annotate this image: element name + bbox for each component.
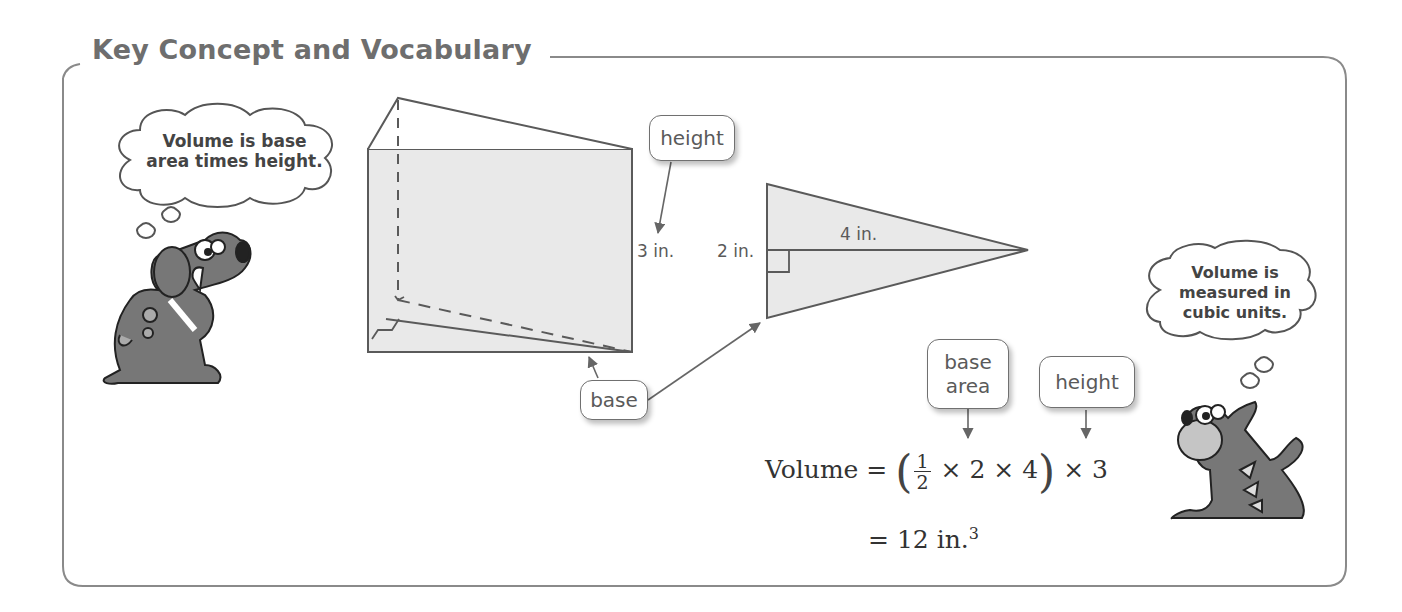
formula-outer-product: × 3 [1063, 455, 1108, 484]
formula-height-label: height [1039, 356, 1135, 408]
base-label: base [580, 380, 648, 420]
close-paren: ) [1038, 446, 1055, 497]
triangle-base [767, 184, 1028, 318]
height-arrow [658, 162, 671, 233]
dog-illustration [104, 233, 251, 384]
cat-illustration [1172, 402, 1304, 518]
fraction-one-half: 12 [914, 451, 930, 492]
fraction-denominator: 2 [914, 472, 930, 492]
formula-result: = 12 in. [868, 525, 969, 554]
open-paren: ( [895, 446, 912, 497]
triangle-height-dimension: 4 in. [840, 224, 877, 244]
triangle-base-dimension: 2 in. [717, 241, 754, 261]
base-area-label-line-2: area [946, 374, 991, 398]
formula-inner-product: × 2 × 4 [940, 455, 1038, 484]
cat-thought-line-3: cubic units. [1160, 303, 1310, 323]
base-area-label-line-1: base [944, 350, 992, 374]
cat-thought-text: Volume is measured in cubic units. [1160, 263, 1310, 323]
volume-formula-line-2: = 12 in.3 [868, 524, 979, 554]
formula-lhs: Volume = [765, 455, 887, 484]
base-arrow-prism [589, 357, 598, 378]
cat-thought-line-1: Volume is [1160, 263, 1310, 283]
dog-thought-line-2: area times height. [142, 151, 327, 171]
prism-height-dimension: 3 in. [637, 241, 674, 261]
base-arrow-triangle [648, 323, 760, 400]
cat-thought-line-2: measured in [1160, 283, 1310, 303]
height-label: height [649, 115, 735, 161]
fraction-numerator: 1 [914, 451, 930, 472]
volume-formula-line-1: Volume = (12 × 2 × 4) × 3 [765, 446, 1108, 497]
triangular-prism [368, 98, 632, 352]
dog-thought-text: Volume is base area times height. [142, 131, 327, 171]
base-area-label: base area [927, 339, 1009, 409]
formula-result-exponent: 3 [969, 524, 979, 543]
dog-thought-line-1: Volume is base [142, 131, 327, 151]
